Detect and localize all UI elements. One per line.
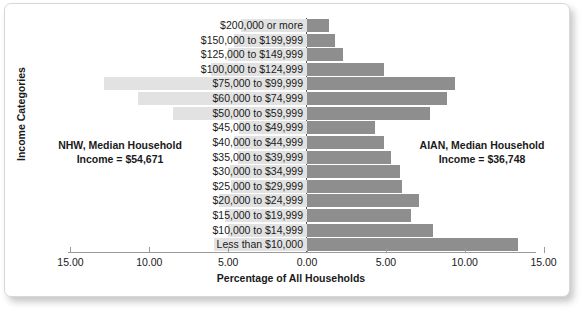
x-axis-tick [70,247,71,253]
x-axis-tick-label: 5.00 [376,256,396,268]
chart-row: $200,000 or more [0,18,582,33]
chart-row: $75,000 to $99,999 [0,76,582,91]
bar-aian [307,77,455,90]
bar-aian [307,136,384,149]
annotation-nhw-line1: NHW, Median Household [36,138,204,152]
x-axis-title: Percentage of All Households [0,272,582,284]
category-label: $15,000 to $19,999 [212,208,303,223]
bar-aian [307,151,391,164]
category-label: $125,000 to $149,999 [201,47,303,62]
bar-aian [307,165,400,178]
chart-row: $15,000 to $19,999 [0,208,582,223]
category-label: $40,000 to $44,999 [212,135,303,150]
chart-row: $100,000 to $124,999 [0,62,582,77]
x-axis-tick-label: 0.00 [297,256,317,268]
category-label: $200,000 or more [220,18,303,33]
bar-aian [307,63,384,76]
x-axis-tick [307,247,308,253]
annotation-aian-line1: AIAN, Median Household [398,138,566,152]
bar-aian [307,19,329,32]
bar-aian [307,121,375,134]
chart-figure: Income Categories $200,000 or more$150,0… [0,0,582,321]
chart-row: $20,000 to $24,999 [0,193,582,208]
chart-row: Less than $10,000 [0,237,582,252]
category-label: $25,000 to $29,999 [212,179,303,194]
x-axis-tick [228,247,229,253]
bar-aian [307,194,419,207]
x-axis-tick-label: 15.00 [57,256,83,268]
category-label: $35,000 to $39,999 [212,150,303,165]
chart-row: $30,000 to $34,999 [0,164,582,179]
x-axis-tick [465,247,466,253]
category-label: $20,000 to $24,999 [212,193,303,208]
chart-row: $60,000 to $74,999 [0,91,582,106]
bar-aian [307,92,447,105]
category-label: $45,000 to $49,999 [212,120,303,135]
bar-aian [307,107,430,120]
category-label: $100,000 to $124,999 [201,62,303,77]
chart-row: $125,000 to $149,999 [0,47,582,62]
category-label: $60,000 to $74,999 [212,91,303,106]
x-axis-tick [386,247,387,253]
chart-row: $50,000 to $59,999 [0,106,582,121]
bar-aian [307,180,402,193]
category-label: Less than $10,000 [217,237,303,252]
annotation-nhw-line2: Income = $54,671 [36,152,204,166]
chart-row: $150,000 to $199,999 [0,33,582,48]
category-label: $30,000 to $34,999 [212,164,303,179]
bar-aian [307,224,433,237]
annotation-aian-line2: Income = $36,748 [398,152,566,166]
chart-row: $45,000 to $49,999 [0,120,582,135]
x-axis-tick-label: 5.00 [218,256,238,268]
x-axis-tick-label: 10.00 [136,256,162,268]
x-axis-tick [149,247,150,253]
bar-aian [307,34,335,47]
category-label: $50,000 to $59,999 [212,106,303,121]
x-axis-tick-label: 15.00 [530,256,556,268]
category-label: $150,000 to $199,999 [201,33,303,48]
chart-row: $10,000 to $14,999 [0,223,582,238]
bar-aian [307,238,518,251]
bar-aian [307,48,343,61]
x-axis-tick-label: 10.00 [452,256,478,268]
category-label: $10,000 to $14,999 [212,223,303,238]
bar-aian [307,209,411,222]
category-label: $75,000 to $99,999 [212,76,303,91]
x-axis-tick [544,247,545,253]
annotation-aian-median: AIAN, Median Household Income = $36,748 [398,138,566,166]
annotation-nhw-median: NHW, Median Household Income = $54,671 [36,138,204,166]
chart-row: $25,000 to $29,999 [0,179,582,194]
